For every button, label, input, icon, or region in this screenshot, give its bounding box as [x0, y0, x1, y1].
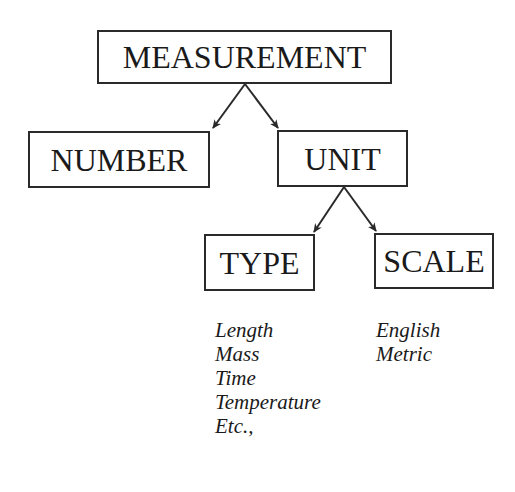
arrow-measurement-to-number [213, 84, 245, 128]
type-example-item: Etc., [215, 414, 321, 438]
node-number-label: NUMBER [51, 144, 188, 176]
node-unit: UNIT [277, 130, 408, 187]
arrow-measurement-to-unit [245, 84, 278, 128]
measurement-diagram: MEASUREMENT NUMBER UNIT TYPE SCALE Lengt… [0, 0, 515, 492]
node-measurement: MEASUREMENT [97, 30, 392, 84]
scale-example-item: Metric [376, 342, 440, 366]
scale-example-item: English [376, 318, 440, 342]
type-example-item: Mass [215, 342, 321, 366]
type-example-item: Time [215, 366, 321, 390]
arrow-unit-to-type [314, 187, 344, 232]
node-scale: SCALE [374, 233, 494, 289]
node-scale-label: SCALE [383, 245, 484, 277]
type-example-item: Length [215, 318, 321, 342]
type-example-item: Temperature [215, 390, 321, 414]
arrow-unit-to-scale [344, 187, 376, 231]
node-measurement-label: MEASUREMENT [123, 41, 367, 73]
type-examples-list: Length Mass Time Temperature Etc., [215, 318, 321, 438]
node-type: TYPE [204, 234, 315, 291]
node-unit-label: UNIT [304, 143, 380, 175]
node-type-label: TYPE [220, 247, 300, 279]
node-number: NUMBER [28, 131, 210, 188]
scale-examples-list: English Metric [376, 318, 440, 366]
